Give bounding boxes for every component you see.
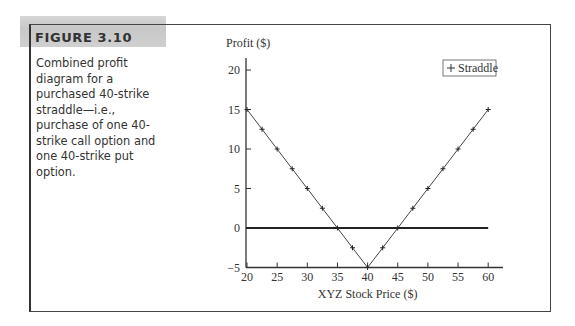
x-tick-label: 40 xyxy=(362,270,374,284)
y-tick-label: −5 xyxy=(227,261,240,275)
y-tick-label: 15 xyxy=(228,103,240,117)
straddle-profit-line xyxy=(247,110,488,268)
x-axis-label: XYZ Stock Price ($) xyxy=(318,287,418,301)
legend-label: Straddle xyxy=(458,61,498,75)
x-tick-label: 35 xyxy=(331,270,343,284)
y-tick-label: 0 xyxy=(234,221,240,235)
x-tick-label: 25 xyxy=(271,270,283,284)
y-tick-label: 5 xyxy=(234,182,240,196)
y-tick-label: 10 xyxy=(228,142,240,156)
x-tick-label: 30 xyxy=(301,270,313,284)
x-tick-label: 55 xyxy=(452,270,464,284)
x-tick-label: 20 xyxy=(241,270,253,284)
x-tick-label: 50 xyxy=(422,270,434,284)
y-axis-label: Profit ($) xyxy=(226,36,270,50)
x-tick-label: 45 xyxy=(392,270,404,284)
x-tick-label: 60 xyxy=(482,270,494,284)
straddle-profit-chart: −505101520202530354045505560XYZ Stock Pr… xyxy=(0,0,575,326)
y-tick-label: 20 xyxy=(228,63,240,77)
